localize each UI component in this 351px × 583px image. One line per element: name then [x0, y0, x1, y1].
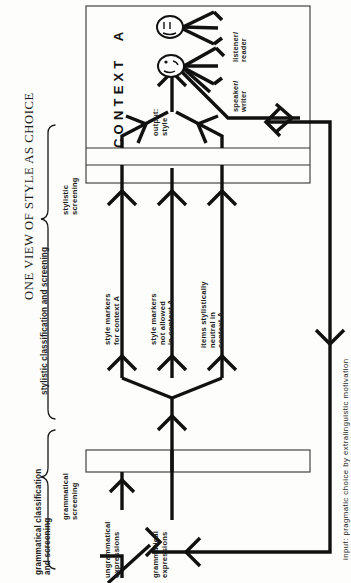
split-to-channel-1: [122, 378, 172, 398]
stage-label-stylistic-screening: stylistic screening: [62, 177, 79, 215]
channel-2-label: style markers not allowed in context A: [150, 293, 176, 345]
speaker-writer-figure: [158, 48, 224, 92]
channel-1-label: style markers for context A: [104, 293, 121, 345]
input-label: input: pragmatic choice by extralinguist…: [342, 358, 351, 560]
grammatical-screening-bar: [86, 450, 310, 472]
output-style-label: output: style: [152, 108, 169, 136]
speaker-writer-label: speaker/ writer: [232, 80, 249, 112]
split-to-channel-3: [172, 378, 222, 398]
channel-3-label: items stylistically neutral in context A: [200, 281, 226, 348]
context-a-label: CONTEXT A: [112, 28, 127, 148]
brace-label-stylistic: stylistic classification and screening: [40, 247, 49, 395]
brace-label-grammatical: grammatical classification and screening: [34, 469, 52, 575]
listener-reader-label: listener/ reader: [232, 32, 249, 62]
ungrammatical-expressions-label: ungrammatical expressions: [104, 521, 121, 578]
stage-label-grammatical-screening: grammatical screening: [62, 473, 79, 520]
input-path: [152, 122, 330, 552]
page-title: ONE VIEW OF STYLE AS CHOICE: [22, 92, 36, 300]
grammatical-expressions-label: grammatical expressions: [152, 531, 169, 578]
listener-reader-figure: [157, 12, 222, 44]
